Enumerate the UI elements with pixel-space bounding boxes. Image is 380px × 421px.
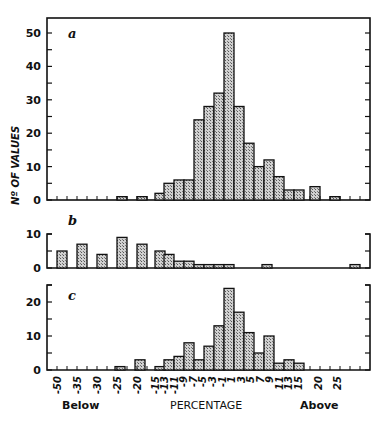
histogram-bar [350, 265, 360, 268]
histogram-bar [254, 353, 264, 370]
y-tick-label: 10 [26, 228, 42, 241]
histogram-bar [194, 120, 204, 200]
histogram-bar [97, 254, 107, 268]
x-tick-label: -35 [72, 376, 83, 394]
x-tick-label: -50 [52, 376, 63, 394]
x-tick-label: -25 [112, 376, 123, 394]
histogram-bar [117, 237, 127, 268]
histogram-bar [164, 360, 174, 370]
histogram-bar [184, 180, 194, 200]
histogram-bar [214, 265, 224, 268]
below-label: Below [62, 399, 99, 412]
y-tick-label: 0 [33, 364, 41, 377]
histogram-bar [284, 360, 294, 370]
histogram-bar [264, 160, 274, 200]
histogram-bar [274, 363, 284, 370]
panel-c: 01020c [26, 285, 370, 377]
histogram-bar [137, 244, 147, 268]
histogram-bar [194, 360, 204, 370]
panel-letter: b [68, 213, 77, 228]
histogram-bar [224, 265, 234, 268]
histogram-bar [174, 180, 184, 200]
panel-a: 01020304050a [26, 18, 370, 207]
histogram-bar [244, 333, 254, 370]
y-tick-label: 0 [33, 194, 41, 207]
histogram-bar [204, 265, 214, 268]
histogram-bar [262, 265, 272, 268]
histogram-bar [174, 356, 184, 370]
histogram-bar [204, 346, 214, 370]
histogram-bar [294, 363, 304, 370]
histogram-bar [184, 343, 194, 370]
y-axis-label: Nº OF VALUES [10, 126, 21, 205]
histogram-bar [174, 261, 184, 268]
histogram-bar [224, 288, 234, 370]
y-tick-label: 10 [26, 330, 42, 343]
x-axis-title: PERCENTAGE [170, 399, 242, 412]
histogram-bar [294, 190, 304, 200]
y-tick-label: 50 [26, 27, 42, 40]
histogram-bar [224, 33, 234, 200]
x-tick-label: -20 [132, 376, 143, 394]
histogram-bar [164, 254, 174, 268]
above-label: Above [300, 399, 339, 412]
histogram-bar [254, 167, 264, 200]
histogram-figure: 01020304050a 010b 01020c -50-35-30-25-20… [0, 0, 380, 421]
y-tick-label: 0 [33, 262, 41, 275]
y-tick-label: 20 [26, 127, 42, 140]
histogram-bar [234, 106, 244, 200]
histogram-bar [274, 177, 284, 200]
histogram-bar [214, 326, 224, 370]
histogram-bar [264, 336, 274, 370]
x-tick-label: 15 [293, 376, 304, 390]
histogram-bar [57, 251, 67, 268]
histogram-bar [137, 197, 147, 200]
histogram-bar [284, 190, 294, 200]
histogram-bar [330, 197, 340, 200]
histogram-bar [184, 261, 194, 268]
histogram-bar [310, 187, 320, 200]
histogram-bar [77, 244, 87, 268]
histogram-bar [214, 93, 224, 200]
x-tick-label: 20 [313, 376, 324, 390]
panel-letter: a [68, 26, 76, 41]
y-tick-label: 10 [26, 161, 42, 174]
x-tick-label: -30 [92, 376, 103, 394]
histogram-bar [244, 143, 254, 200]
histogram-bar [234, 312, 244, 370]
histogram-bar [164, 183, 174, 200]
y-tick-label: 40 [26, 60, 42, 73]
histogram-bar [194, 265, 204, 268]
y-tick-label: 20 [26, 296, 42, 309]
x-tick-label: 25 [332, 376, 343, 390]
y-tick-label: 30 [26, 94, 42, 107]
panel-b: 010b [26, 213, 370, 275]
panel-letter: c [68, 288, 76, 303]
histogram-bar [117, 197, 127, 200]
histogram-bar [204, 106, 214, 200]
